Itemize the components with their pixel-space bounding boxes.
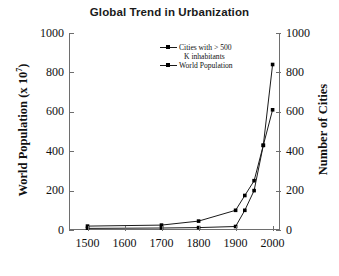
axis-tick-mark <box>88 226 89 231</box>
series-marker-1 <box>252 189 256 193</box>
page-title: Global Trend in Urbanization <box>0 6 339 18</box>
legend-item-population: World Population <box>160 61 272 70</box>
axis-tick-mark <box>276 33 281 34</box>
axis-tick-mark <box>276 230 281 231</box>
chart-screenshot: Global Trend in Urbanization World Popul… <box>0 0 339 276</box>
series-line-0 <box>88 65 273 227</box>
axis-tick-mark <box>276 112 281 113</box>
legend-item-cities-line2: K inhabitants <box>160 52 272 61</box>
series-marker-1 <box>262 144 266 148</box>
y-axis-left-tick-label: 1000 <box>22 26 64 41</box>
axis-tick-mark <box>276 191 281 192</box>
legend-label-population: World Population <box>179 61 233 70</box>
y-axis-right-tick-label: 800 <box>286 65 328 80</box>
series-marker-1 <box>243 209 247 213</box>
axis-tick-mark <box>69 33 74 34</box>
x-axis-tick-label: 2000 <box>250 236 296 251</box>
legend-marker-population-icon <box>160 61 177 70</box>
legend-item-cities: Cities with > 500 <box>160 43 272 52</box>
axis-tick-mark <box>162 226 163 231</box>
y-axis-left-tick-label: 200 <box>22 183 64 198</box>
y-axis-left-tick-label: 400 <box>22 144 64 159</box>
axis-tick-mark <box>276 151 281 152</box>
axis-tick-mark <box>69 112 74 113</box>
y-axis-left-tick-label: 800 <box>22 65 64 80</box>
axis-tick-mark <box>273 226 274 231</box>
chart-legend: Cities with > 500 K inhabitants World Po… <box>160 43 272 71</box>
series-marker-0 <box>243 194 247 198</box>
legend-label-cities-line2: K inhabitants <box>184 52 225 61</box>
axis-tick-mark <box>125 226 126 231</box>
y-axis-right-tick-label: 1000 <box>286 26 328 41</box>
series-marker-1 <box>271 108 275 112</box>
axis-tick-mark <box>199 226 200 231</box>
legend-label-cities-line1: Cities with > 500 <box>179 43 232 52</box>
y-axis-right-tick-label: 600 <box>286 104 328 119</box>
axis-tick-mark <box>236 226 237 231</box>
series-marker-0 <box>197 219 201 223</box>
y-axis-left-tick-label: 0 <box>22 223 64 238</box>
series-marker-0 <box>234 209 238 213</box>
axis-tick-mark <box>69 151 74 152</box>
y-axis-left-tick-label: 600 <box>22 104 64 119</box>
y-axis-left-title-text: World Population (x 10 <box>16 72 30 197</box>
y-axis-right-tick-label: 200 <box>286 183 328 198</box>
legend-marker-cities-icon <box>160 43 177 52</box>
axis-tick-mark <box>69 191 74 192</box>
axis-tick-mark <box>276 72 281 73</box>
axis-tick-mark <box>69 72 74 73</box>
axis-tick-mark <box>69 230 74 231</box>
y-axis-right-tick-label: 400 <box>286 144 328 159</box>
